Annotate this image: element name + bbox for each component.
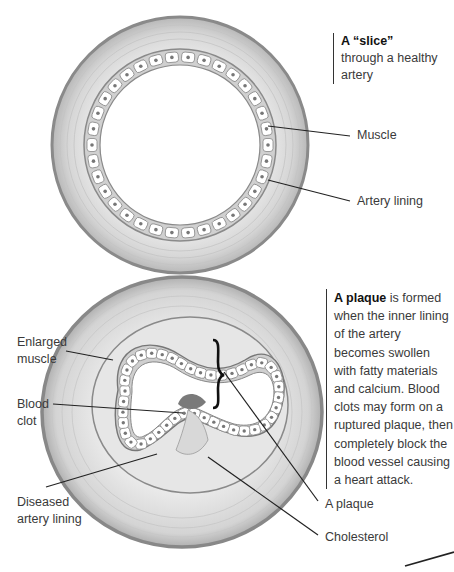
cell-nucleus [265,127,269,131]
plaque-caption: A plaque is formed when the inner lining… [326,289,454,489]
cell-nucleus [277,385,280,388]
label-blood-clot-line1: Blood [17,397,49,411]
cell-nucleus [274,406,277,409]
cell-nucleus [253,97,257,101]
cell-nucleus [266,143,270,147]
cell-nucleus [125,213,129,217]
healthy-artery-caption: A “slice” through a healthy artery [333,33,454,84]
cell-nucleus [129,440,132,443]
healthy-artery [52,17,308,273]
cell-nucleus [125,73,129,77]
label-enlarged-muscle-line1: Enlarged [17,335,67,349]
cell-nucleus [103,190,107,194]
cell-nucleus [180,362,183,365]
healthy-caption-bold: A “slice” [341,34,393,48]
cell-nucleus [154,228,158,232]
label-artery-lining: Artery lining [357,193,423,210]
cell-nucleus [189,367,192,370]
cell-nucleus [260,111,264,115]
cell-nucleus [139,64,143,68]
label-diseased-line1: Diseased [17,495,69,509]
cell-nucleus [103,97,107,101]
cell-nucleus [173,417,176,420]
cell-nucleus [217,222,221,226]
cell-nucleus [150,352,153,355]
label-diseased-line2: artery lining [17,512,82,526]
label-enlarged-muscle: Enlarged muscle [17,334,67,367]
cell-nucleus [154,59,158,63]
cell-nucleus [240,368,243,371]
cell-nucleus [232,428,235,431]
plaque-caption-bold: A plaque [334,291,386,305]
label-a-plaque: A plaque [325,496,374,513]
cell-nucleus [122,421,125,424]
cell-nucleus [243,202,247,206]
cell-nucleus [165,424,168,427]
cell-nucleus [186,231,190,235]
cell-nucleus [96,111,100,115]
cell-nucleus [260,361,263,364]
label-diseased-artery-lining: Diseased artery lining [17,494,82,527]
label-cholesterol: Cholesterol [325,529,388,546]
cell-nucleus [157,431,160,434]
cell-nucleus [123,389,126,392]
label-muscle: Muscle [357,127,397,144]
cell-nucleus [122,400,125,403]
cell-nucleus [277,396,280,399]
cell-nucleus [125,368,128,371]
cell-nucleus [121,410,124,413]
cell-nucleus [96,175,100,179]
plaque-caption-text: is formed when the inner lining of the a… [334,291,453,487]
cell-nucleus [170,231,174,235]
diseased-artery [42,277,322,547]
cell-nucleus [170,56,174,60]
cell-nucleus [260,175,264,179]
cell-nucleus [250,363,253,366]
cell-nucleus [209,373,212,376]
cell-nucleus [222,425,225,428]
cell-nucleus [231,213,235,217]
label-enlarged-muscle-line2: muscle [17,352,57,366]
cell-nucleus [243,84,247,88]
cell-nucleus [243,429,246,432]
cell-nucleus [253,428,256,431]
cell-nucleus [92,159,96,163]
cell-nucleus [253,190,257,194]
cell-nucleus [149,437,152,440]
cell-nucleus [202,416,205,419]
cell-nucleus [90,143,94,147]
cell-nucleus [275,375,278,378]
cell-nucleus [231,73,235,77]
cell-nucleus [113,84,117,88]
cell-nucleus [131,359,134,362]
cell-nucleus [269,366,272,369]
cell-nucleus [171,357,174,360]
cell-nucleus [113,202,117,206]
cell-nucleus [212,420,215,423]
cell-nucleus [202,59,206,63]
cell-nucleus [270,416,273,419]
cell-nucleus [139,222,143,226]
cell-nucleus [202,228,206,232]
cell-nucleus [199,371,202,374]
cell-nucleus [186,56,190,60]
cell-nucleus [265,159,269,163]
label-blood-clot-line2: clot [17,414,36,428]
cell-nucleus [92,127,96,131]
cell-nucleus [124,432,127,435]
cell-nucleus [161,353,164,356]
healthy-caption-text: through a healthy artery [341,51,438,82]
cell-nucleus [140,353,143,356]
healthy-lumen [100,65,260,225]
cell-nucleus [217,64,221,68]
cell-nucleus [230,372,233,375]
cell-nucleus [123,379,126,382]
cropped-pointer-line [405,552,454,566]
label-blood-clot: Blood clot [17,396,49,429]
cell-nucleus [139,442,142,445]
